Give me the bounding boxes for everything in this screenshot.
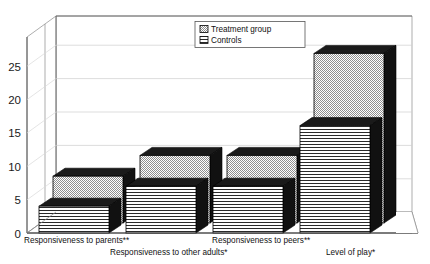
treatment-swatch-icon	[200, 26, 208, 33]
y-tick-5: 5	[15, 194, 21, 206]
category-label-other-adults: Responsiveness to other adults*	[110, 248, 228, 257]
bar-chart: 25 20 15 10 5 0	[0, 0, 430, 264]
y-tick-10: 10	[8, 161, 21, 173]
bar-group-responsiveness-to-peers	[213, 147, 309, 233]
bar-controls-3	[300, 118, 382, 233]
bar-group-responsiveness-to-other-adults	[126, 147, 222, 233]
bar-group-responsiveness-to-parents	[39, 168, 135, 233]
chart-canvas: 25 20 15 10 5 0	[0, 0, 430, 264]
y-tick-15: 15	[8, 127, 21, 139]
y-tick-20: 20	[8, 94, 21, 106]
bar-controls-2	[213, 178, 295, 233]
legend-item-controls[interactable]: Controls	[200, 36, 242, 45]
y-tick-0: 0	[15, 228, 21, 240]
legend-label-treatment: Treatment group	[211, 25, 272, 34]
legend-item-treatment-group[interactable]: Treatment group	[200, 25, 272, 34]
bar-controls-1	[126, 178, 208, 233]
legend-label-controls: Controls	[211, 36, 242, 45]
category-label-peers: Responsiveness to peers**	[212, 236, 311, 245]
y-tick-25: 25	[8, 61, 21, 73]
category-label-level-of-play: Level of play*	[326, 248, 376, 257]
controls-swatch-icon	[200, 37, 208, 44]
category-label-parents: Responsiveness to parents**	[24, 236, 130, 245]
chart-legend[interactable]: Treatment group Controls	[195, 22, 305, 48]
bar-group-level-of-play	[300, 45, 396, 233]
